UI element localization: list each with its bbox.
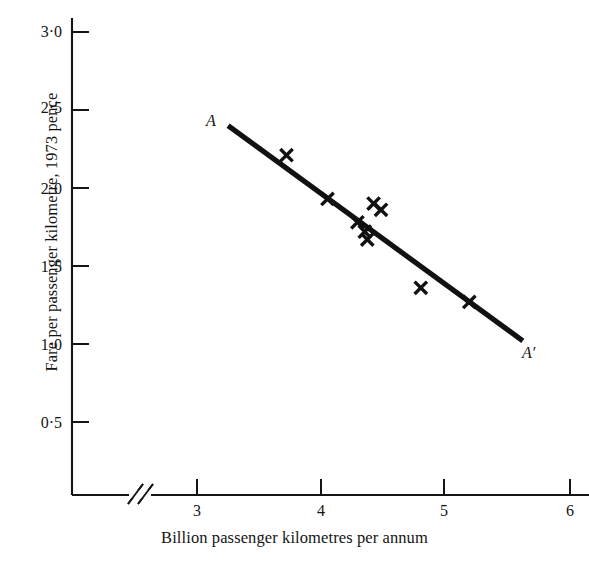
data-point-marker bbox=[280, 149, 292, 161]
data-point-marker bbox=[415, 282, 427, 294]
plot-area bbox=[0, 0, 589, 561]
y-tick-marks bbox=[72, 32, 89, 422]
data-point-marker bbox=[375, 204, 387, 216]
x-axis-break-icon bbox=[128, 484, 153, 504]
chart-figure: Fare per passenger kilometre, 1973 pence… bbox=[0, 0, 589, 561]
trendline-AA-prime bbox=[228, 126, 523, 341]
x-tick-marks bbox=[197, 479, 570, 495]
